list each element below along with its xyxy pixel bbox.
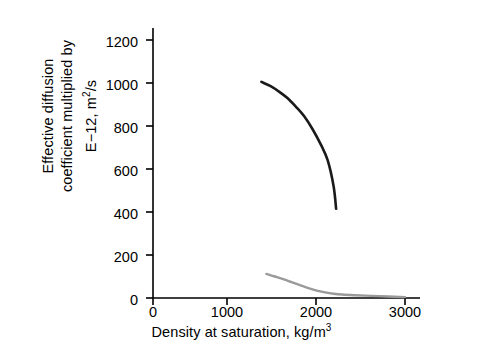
series-upper-curve — [261, 82, 336, 209]
data-series-group — [261, 82, 405, 297]
chart-figure: Effective diffusion coefficient multipli… — [0, 0, 483, 364]
axes — [146, 28, 420, 305]
series-lower-curve — [266, 274, 405, 297]
plot-area — [0, 0, 483, 364]
